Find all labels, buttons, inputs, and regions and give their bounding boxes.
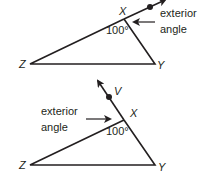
vertex-label-v-bottom: V — [114, 85, 123, 97]
interior-angle-label-top: 100° — [106, 24, 129, 36]
bottom-diagram: V X Z Y 100° exterior angle — [18, 81, 166, 173]
exterior-label-line2-top: angle — [160, 23, 187, 35]
exterior-angle-figure: X Z Y 100° exterior angle V X Z Y 100° e… — [0, 0, 206, 185]
exterior-label-line2-bottom: angle — [41, 121, 68, 133]
point-on-ray-top — [147, 4, 153, 10]
vertex-label-z-top: Z — [18, 58, 27, 70]
vertex-label-z-bottom: Z — [18, 159, 27, 171]
extension-ray-top — [124, 0, 165, 19]
point-v-bottom — [106, 94, 112, 100]
vertex-label-x-top: X — [118, 5, 127, 17]
vertex-label-y-top: Y — [157, 59, 165, 71]
exterior-label-line1-bottom: exterior — [41, 105, 78, 117]
vertex-label-y-bottom: Y — [158, 161, 166, 173]
top-diagram: X Z Y 100° exterior angle — [18, 0, 197, 71]
triangle-top — [30, 19, 155, 64]
vertex-label-x-bottom: X — [129, 107, 138, 119]
exterior-label-line1-top: exterior — [160, 7, 197, 19]
interior-angle-label-bottom: 100° — [106, 125, 129, 137]
